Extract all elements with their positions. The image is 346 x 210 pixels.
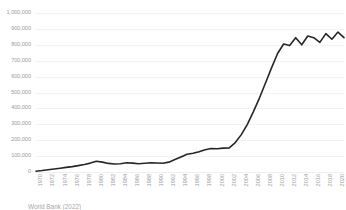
chart-container: 0100,000200,000300,000400,000500,000600,… bbox=[0, 0, 346, 210]
x-axis-tick-label: 2020 bbox=[340, 174, 346, 186]
x-axis-tick-label: 1976 bbox=[75, 174, 81, 186]
x-axis-tick-label: 1970 bbox=[38, 174, 44, 186]
plot-area bbox=[36, 13, 344, 172]
x-axis-tick-label: 2018 bbox=[328, 174, 334, 186]
y-axis-tick-label: 200,000 bbox=[11, 137, 31, 143]
x-axis-tick-label: 2014 bbox=[304, 174, 310, 186]
x-axis-tick-label: 1986 bbox=[135, 174, 141, 186]
x-axis-tick-label: 1988 bbox=[147, 174, 153, 186]
x-axis-tick-label: 1974 bbox=[63, 174, 69, 186]
y-axis-tick-label: 100,000 bbox=[11, 153, 31, 159]
x-axis-tick-label: 1980 bbox=[99, 174, 105, 186]
gridline bbox=[36, 172, 344, 173]
y-axis: 0100,000200,000300,000400,000500,000600,… bbox=[0, 13, 34, 172]
x-axis-tick-label: 2012 bbox=[292, 174, 298, 186]
x-axis-tick-label: 2006 bbox=[256, 174, 262, 186]
y-axis-tick-label: 700,000 bbox=[11, 58, 31, 64]
x-axis-tick-label: 2002 bbox=[232, 174, 238, 186]
series-line-chart bbox=[36, 13, 344, 172]
x-axis-tick-label: 1982 bbox=[111, 174, 117, 186]
y-axis-tick-label: 900,000 bbox=[11, 26, 31, 32]
x-axis-tick-label: 2004 bbox=[244, 174, 250, 186]
x-axis-tick-label: 1978 bbox=[87, 174, 93, 186]
x-axis-tick-label: 2016 bbox=[316, 174, 322, 186]
x-axis-tick-label: 1992 bbox=[171, 174, 177, 186]
x-axis-tick-label: 2008 bbox=[268, 174, 274, 186]
x-axis-tick-label: 1972 bbox=[50, 174, 56, 186]
x-axis-tick-label: 1990 bbox=[159, 174, 165, 186]
x-axis-tick-label: 2010 bbox=[280, 174, 286, 186]
x-axis-tick-label: 1996 bbox=[195, 174, 201, 186]
y-axis-tick-label: 1,000,000 bbox=[7, 10, 31, 16]
x-axis-tick-label: 1994 bbox=[183, 174, 189, 186]
y-axis-tick-label: 800,000 bbox=[11, 42, 31, 48]
x-axis-tick-label: 1984 bbox=[123, 174, 129, 186]
x-axis-tick-label: 2000 bbox=[220, 174, 226, 186]
y-axis-tick-label: 0 bbox=[28, 169, 31, 175]
source-caption: World Bank (2022) bbox=[28, 204, 81, 210]
x-axis: 1970197219741976197819801982198419861988… bbox=[36, 174, 344, 202]
series-line-path bbox=[36, 32, 344, 171]
y-axis-tick-label: 600,000 bbox=[11, 74, 31, 80]
y-axis-tick-label: 500,000 bbox=[11, 90, 31, 96]
y-axis-tick-label: 300,000 bbox=[11, 122, 31, 128]
x-axis-tick-label: 1998 bbox=[207, 174, 213, 186]
y-axis-tick-label: 400,000 bbox=[11, 106, 31, 112]
